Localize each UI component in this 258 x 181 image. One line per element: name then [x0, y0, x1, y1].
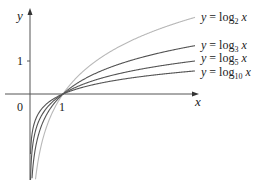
curve-log10 — [31, 71, 196, 154]
curve-log3 — [32, 46, 195, 179]
legend-log10: y = log10 x — [200, 65, 251, 81]
curve-log5 — [31, 61, 196, 180]
y-tick-label-1: 1 — [17, 54, 23, 68]
legend-log2: y = log2 x — [200, 10, 247, 26]
curves-group — [31, 17, 196, 180]
log-functions-chart: y x 0 1 1 y = log2 x y = log3 x y = log5… — [0, 0, 258, 181]
origin-label: 0 — [17, 100, 23, 114]
curve-log2 — [36, 17, 196, 179]
y-axis-label: y — [15, 8, 23, 23]
x-axis-label: x — [194, 94, 201, 109]
x-tick-label-1: 1 — [59, 100, 65, 114]
y-axis-arrow-icon — [28, 8, 33, 15]
